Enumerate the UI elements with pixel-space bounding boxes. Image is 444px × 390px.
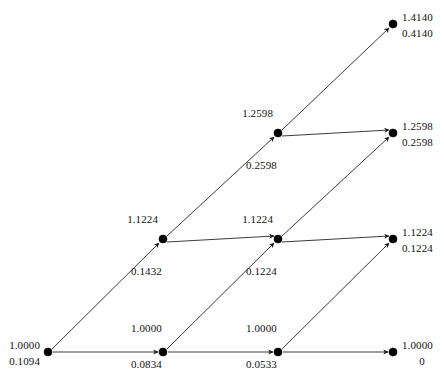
node-n2-2[interactable]	[274, 129, 282, 137]
node-n3-0-price-label: 1.0000	[402, 339, 433, 352]
node-n2-0-price-label: 1.0000	[246, 322, 277, 335]
node-n1-0[interactable]	[159, 348, 167, 356]
node-n1-0-value-label: 0.0834	[131, 358, 162, 371]
edge-n2-1-to-n3-1	[282, 236, 389, 242]
node-n3-0-value-label: 0	[402, 355, 442, 368]
node-n3-2-price-label: 1.2598	[402, 120, 433, 133]
edges-group	[52, 28, 389, 352]
edge-n2-1-to-n3-2	[282, 137, 389, 236]
edge-n2-2-to-n3-2	[282, 130, 389, 136]
node-n2-1-price-label: 1.1224	[225, 213, 273, 226]
node-n0-0-value-label: 0.1094	[0, 355, 40, 368]
node-n3-2[interactable]	[389, 129, 397, 137]
node-n3-1-price-label: 1.1224	[402, 226, 433, 239]
node-n0-0-price-label: 1.0000	[0, 339, 40, 352]
node-n3-3[interactable]	[389, 20, 397, 28]
node-n3-2-value-label: 0.2598	[402, 136, 433, 149]
node-n3-1-value-label: 0.1224	[402, 242, 433, 255]
node-n2-2-price-label: 1.2598	[225, 107, 273, 120]
node-n3-0[interactable]	[389, 348, 397, 356]
node-n1-1[interactable]	[159, 235, 167, 243]
node-n2-0[interactable]	[274, 348, 282, 356]
tree-diagram-canvas: 1.0000 0.1094 1.1224 0.1432 1.0000 0.083…	[0, 0, 444, 390]
node-n3-1[interactable]	[389, 235, 397, 243]
node-n3-3-price-label: 1.4140	[402, 11, 433, 24]
node-n2-2-value-label: 0.2598	[246, 159, 277, 172]
edge-n2-0-to-n3-1	[282, 243, 389, 349]
node-n2-1-value-label: 0.1224	[246, 265, 277, 278]
edge-n2-2-to-n3-3	[282, 28, 389, 130]
node-n1-0-price-label: 1.0000	[131, 322, 162, 335]
node-n1-1-value-label: 0.1432	[131, 265, 162, 278]
lattice-svg	[0, 0, 444, 390]
node-n1-1-price-label: 1.1224	[110, 213, 158, 226]
edge-n1-1-to-n2-1	[167, 236, 274, 242]
node-n2-1[interactable]	[274, 235, 282, 243]
node-n0-0[interactable]	[44, 348, 52, 356]
node-n2-0-value-label: 0.0533	[246, 358, 277, 371]
node-n3-3-value-label: 0.4140	[402, 27, 433, 40]
